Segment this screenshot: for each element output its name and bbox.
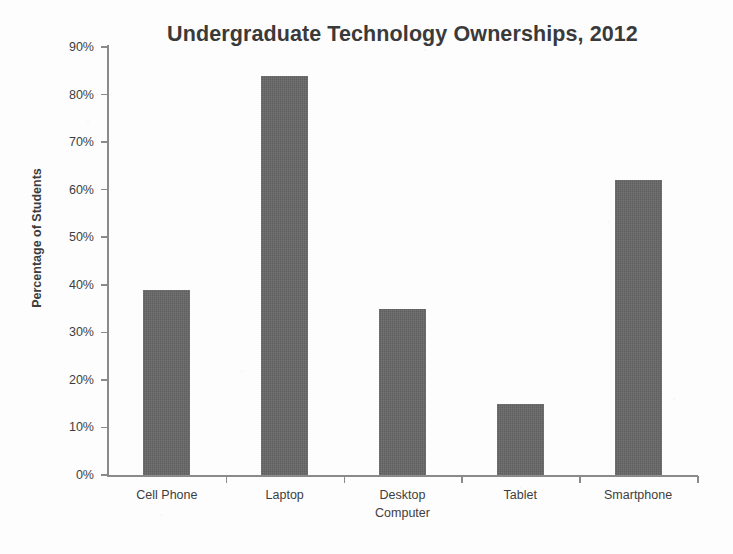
y-axis-tick [101,379,108,381]
bar [143,290,190,475]
y-axis-tick-label: 60% [50,183,94,197]
x-axis-category-label-line: Smartphone [579,486,698,504]
x-axis-category-label-line: Cell Phone [107,486,226,504]
y-axis-tick [101,427,108,429]
y-axis-title: Percentage of Students [30,168,44,308]
plot-area [108,47,697,475]
y-axis-tick-label: 10% [50,420,94,434]
y-axis-tick-label: 50% [50,230,94,244]
y-axis-tick [101,94,108,96]
bar [261,76,308,475]
x-axis-tick [697,476,699,483]
bar [379,309,426,475]
x-axis-line [107,475,698,477]
chart-title: Undergraduate Technology Ownerships, 201… [108,22,697,47]
y-axis-tick-label: 20% [50,373,94,387]
y-axis-tick [101,141,108,143]
x-axis-tick [579,476,581,483]
y-axis-tick [101,284,108,286]
y-axis-tick [101,46,108,48]
y-axis-tick [101,332,108,334]
x-axis-category-label-line: Laptop [225,486,344,504]
y-axis-tick-label: 40% [50,278,94,292]
y-axis-tick-label: 70% [50,135,94,149]
x-axis-category-label-line: Tablet [461,486,580,504]
y-axis-tick-label: 90% [50,40,94,54]
y-axis-tick [101,474,108,476]
y-axis-tick-label: 80% [50,88,94,102]
bar-chart: Undergraduate Technology Ownerships, 201… [0,0,733,554]
y-axis-tick-label: 30% [50,325,94,339]
x-axis-tick [226,476,228,483]
bar [615,180,662,475]
y-axis-tick [101,189,108,191]
x-axis-category-label-line: Computer [343,504,462,522]
x-axis-tick [461,476,463,483]
x-axis-category-label: Smartphone [579,486,698,504]
x-axis-category-label-line: Desktop [343,486,462,504]
x-axis-category-label: DesktopComputer [343,486,462,522]
y-axis-tick [101,236,108,238]
bar [497,404,544,475]
x-axis-category-label: Laptop [225,486,344,504]
x-axis-category-label: Cell Phone [107,486,226,504]
x-axis-category-label: Tablet [461,486,580,504]
x-axis-tick [344,476,346,483]
y-axis-tick-label: 0% [50,468,94,482]
